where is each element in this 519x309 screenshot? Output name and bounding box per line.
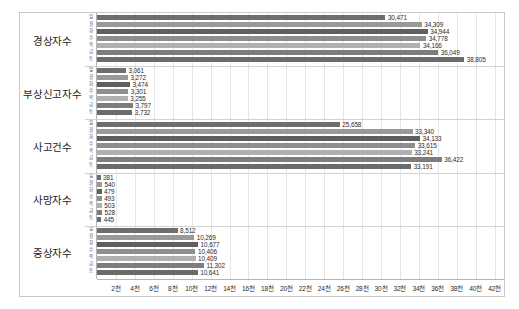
x-axis-tick-label: 18천: [261, 283, 274, 293]
plot-area: 30,47134,30934,94434,77834,16636,04938,8…: [97, 13, 504, 279]
bar: [97, 249, 195, 254]
bar: [97, 228, 178, 233]
day-tick-label: 일: [85, 121, 96, 126]
category-axis-label: 사망자수: [20, 192, 85, 207]
bar-value-label: 34,166: [423, 43, 442, 48]
bar: [97, 263, 204, 268]
day-tick-label: 토: [85, 163, 96, 168]
day-tick-label: 목: [85, 202, 96, 207]
x-axis-tick-label: 20천: [280, 283, 293, 293]
x-axis-tick-label: 16천: [242, 283, 255, 293]
x-axis-tick-label: 8천: [168, 283, 177, 293]
bar-value-label: 3,061: [128, 68, 144, 73]
day-tick-label: 수: [85, 195, 96, 200]
bar-value-label: 503: [104, 203, 114, 208]
category-axis-label: 중상자수: [20, 245, 85, 260]
bar-value-label: 3,797: [135, 103, 151, 108]
x-axis-tick-label: 42천: [488, 283, 501, 293]
day-tick-label: 수: [85, 248, 96, 253]
x-axis-tick-label: 36천: [431, 283, 444, 293]
bar: [97, 196, 102, 201]
day-tick-label: 토: [85, 269, 96, 274]
bar: [97, 235, 194, 240]
bar: [97, 129, 413, 134]
bar: [97, 157, 442, 162]
day-tick-label: 수: [85, 142, 96, 147]
bar: [97, 96, 128, 101]
bar-value-label: 10,641: [200, 270, 219, 275]
bar-value-label: 25,658: [342, 122, 361, 127]
bar-value-label: 38,805: [467, 57, 486, 62]
day-tick-label: 목: [85, 255, 96, 260]
group-separator: [85, 66, 504, 67]
bar-value-label: 30,471: [388, 15, 407, 20]
bar-value-label: 3,272: [130, 75, 146, 80]
bar-value-label: 34,133: [423, 136, 442, 141]
category-axis: 경상자수부상신고자수사고건수사망자수중상자수: [20, 13, 85, 296]
bar: [97, 103, 133, 108]
x-axis-tick-label: 22천: [299, 283, 312, 293]
x-axis-tick-label: 38천: [450, 283, 463, 293]
bar: [97, 68, 126, 73]
day-tick-label: 수: [85, 89, 96, 94]
bar: [97, 150, 412, 155]
bar: [97, 189, 102, 194]
x-axis-tick-label: 40천: [469, 283, 482, 293]
day-tick-label: 토: [85, 110, 96, 115]
x-axis-tick-label: 12천: [204, 283, 217, 293]
day-tick-label: 화: [85, 241, 96, 246]
bar-value-label: 493: [104, 196, 114, 201]
day-tick-label: 목: [85, 149, 96, 154]
bar: [97, 203, 102, 208]
bar: [97, 82, 130, 87]
x-axis-tick-label: 2천: [111, 283, 120, 293]
bar-value-label: 381: [103, 175, 113, 180]
grid-line: [495, 13, 496, 279]
bar-value-label: 479: [104, 189, 114, 194]
bar: [97, 36, 426, 41]
bar-value-label: 11,302: [206, 263, 224, 268]
day-tick-label: 금: [85, 50, 96, 55]
bar-value-label: 3,474: [132, 82, 148, 87]
bar: [97, 210, 102, 215]
day-tick-label: 월: [85, 234, 96, 239]
day-tick-label: 일: [85, 68, 96, 73]
day-tick-label: 월: [85, 22, 96, 27]
day-tick-label: 일: [85, 227, 96, 232]
bar-value-label: 33,340: [415, 129, 434, 134]
bar: [97, 110, 132, 115]
bar-value-label: 3,301: [131, 89, 147, 94]
bar: [97, 143, 415, 148]
x-axis-tick-label: 26천: [337, 283, 350, 293]
day-of-week-axis: 일월화수목금토일월화수목금토일월화수목금토일월화수목금토일월화수목금토: [85, 13, 97, 279]
category-axis-label: 경상자수: [20, 33, 85, 48]
x-axis: 2천4천6천8천10천12천14천16천18천20천22천24천26천28천30…: [97, 279, 504, 296]
bar: [97, 164, 411, 169]
day-tick-label: 월: [85, 128, 96, 133]
day-tick-label: 화: [85, 188, 96, 193]
group-separator: [85, 226, 504, 227]
x-axis-tick-label: 28천: [356, 283, 369, 293]
bar: [97, 43, 420, 48]
day-tick-label: 토: [85, 216, 96, 221]
bar: [97, 136, 420, 141]
day-tick-label: 금: [85, 262, 96, 267]
group-separator: [85, 119, 504, 120]
bar-value-label: 3,732: [135, 110, 151, 115]
bar: [97, 22, 422, 27]
bar-value-label: 528: [104, 210, 114, 215]
day-tick-label: 월: [85, 75, 96, 80]
bar: [97, 50, 438, 55]
bar-value-label: 34,944: [430, 29, 449, 34]
bar: [97, 242, 198, 247]
bar-value-label: 10,677: [201, 242, 220, 247]
bar: [97, 29, 428, 34]
day-tick-label: 금: [85, 209, 96, 214]
bar-value-label: 10,406: [198, 249, 217, 254]
bar: [97, 75, 128, 80]
bar-value-label: 34,778: [429, 36, 448, 41]
bar-value-label: 10,409: [198, 256, 217, 261]
day-tick-label: 토: [85, 57, 96, 62]
day-tick-label: 화: [85, 29, 96, 34]
x-axis-tick-label: 34천: [412, 283, 425, 293]
